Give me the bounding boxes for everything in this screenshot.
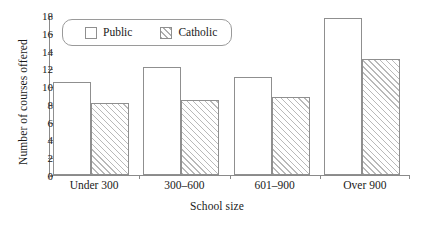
- y-tick-label: 8: [27, 99, 53, 110]
- y-tick-label: 10: [27, 82, 53, 93]
- y-tick-label: 2: [27, 153, 53, 164]
- x-tick: [49, 175, 50, 179]
- bar-catholic-0: [91, 103, 129, 175]
- bar-catholic-1: [181, 100, 219, 175]
- bar-catholic-3: [362, 59, 400, 175]
- legend-label-catholic: Catholic: [178, 27, 217, 39]
- bar-chart: Number of courses offered School size 02…: [0, 0, 434, 227]
- x-tick: [320, 175, 321, 179]
- x-axis-title: School size: [0, 200, 434, 212]
- x-tick: [139, 175, 140, 179]
- bar-public-0: [53, 82, 91, 175]
- legend-label-public: Public: [103, 27, 132, 39]
- hatched-square-icon: [160, 27, 172, 39]
- legend: Public Catholic: [62, 19, 232, 46]
- x-tick: [409, 175, 410, 179]
- y-tick-label: 18: [27, 11, 53, 22]
- y-tick-label: 16: [27, 28, 53, 39]
- x-tick-label: Over 900: [343, 179, 386, 191]
- x-tick: [230, 175, 231, 179]
- bar-public-2: [234, 77, 272, 175]
- y-tick-label: 6: [27, 117, 53, 128]
- bar-public-3: [324, 18, 362, 175]
- bar-catholic-2: [272, 97, 310, 175]
- y-tick-label: 14: [27, 46, 53, 57]
- x-tick-label: 601–900: [255, 179, 295, 191]
- x-tick-label: 300–600: [164, 179, 204, 191]
- y-tick-label: 4: [27, 135, 53, 146]
- x-tick-label: Under 300: [70, 179, 119, 191]
- bar-public-1: [143, 67, 181, 175]
- y-tick-label: 12: [27, 64, 53, 75]
- open-square-icon: [85, 27, 97, 39]
- legend-item-catholic: Catholic: [160, 27, 217, 39]
- legend-item-public: Public: [85, 27, 132, 39]
